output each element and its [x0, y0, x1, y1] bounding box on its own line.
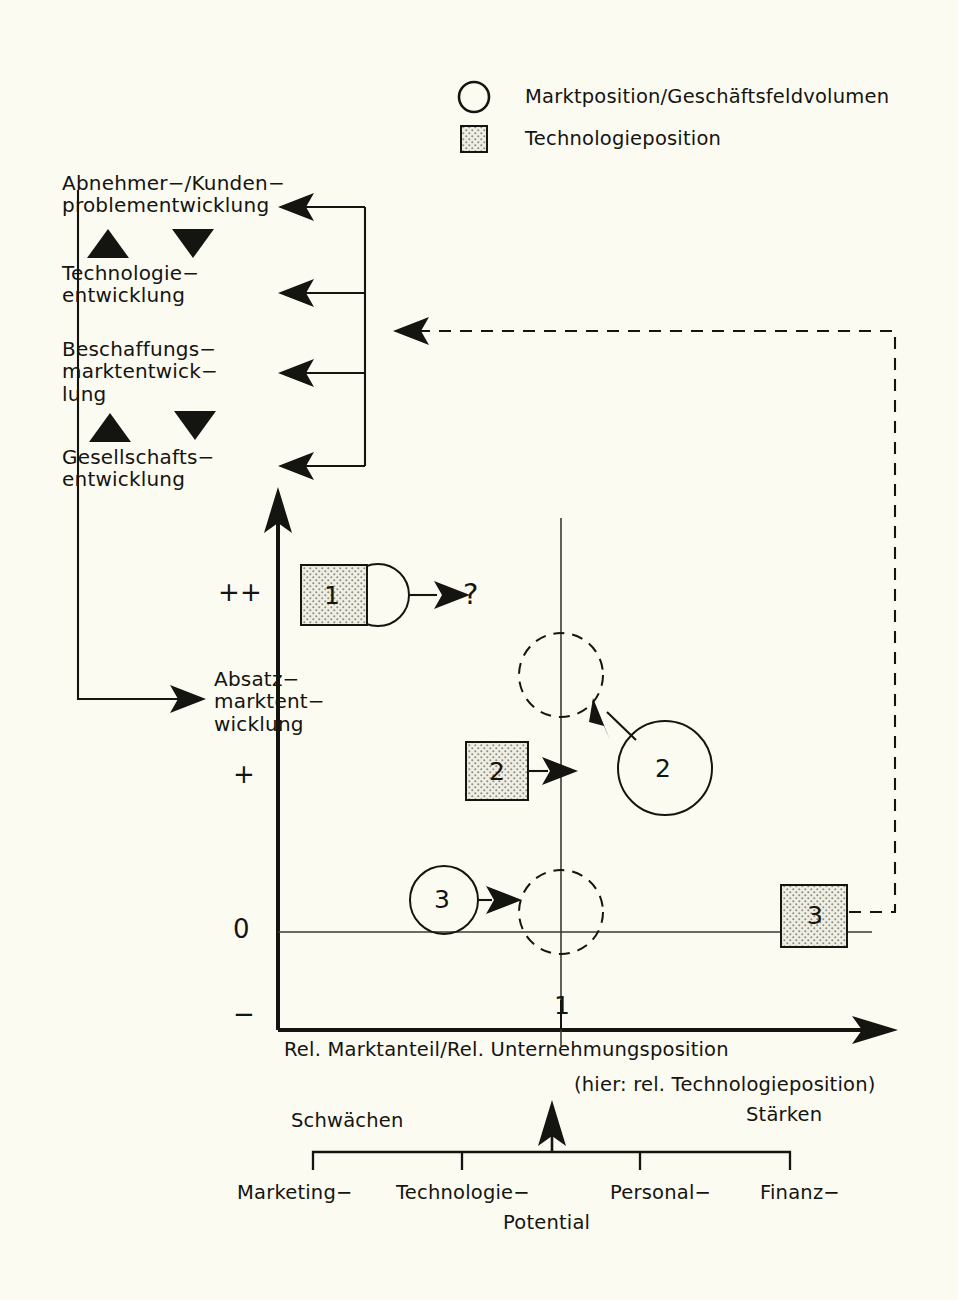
triangle-down-icon-2: [174, 411, 216, 440]
legend-circle-icon: [459, 82, 489, 112]
x-axis-subtitle: (hier: rel. Technologieposition): [574, 1074, 876, 1096]
potential-left-label: Schwächen: [291, 1110, 404, 1132]
arrow-shaft-2b: [607, 712, 636, 740]
datapoint-label-tech-2: 2: [489, 758, 505, 786]
datapoint-label-market-2: 2: [655, 755, 671, 783]
legend-dotted-square-icon: [461, 126, 487, 152]
dashed-feedback-path: [418, 331, 895, 912]
y-tick-plus: +: [233, 760, 255, 789]
influence-label-technology: Technologie− entwicklung: [62, 262, 199, 307]
influence-output-label: Absatz− marktent− wicklung: [214, 668, 325, 735]
triangle-up-icon-1: [87, 229, 129, 258]
potential-caption: Potential: [503, 1212, 590, 1234]
potential-item-marketing: Marketing−: [237, 1182, 353, 1204]
datapoint-label-tech-3: 3: [807, 902, 823, 930]
triangle-down-icon-1: [172, 229, 214, 258]
potential-item-personal: Personal−: [610, 1182, 711, 1204]
potential-item-technology: Technologie−: [396, 1182, 530, 1204]
arrowhead-upleft-2: [589, 698, 610, 740]
influence-label-customer: Abnehmer−/Kunden− problementwicklung: [62, 172, 285, 217]
y-tick-minus: −: [233, 1000, 255, 1029]
datapoint-label-market-3: 3: [434, 886, 450, 914]
potential-right-label: Stärken: [746, 1104, 822, 1126]
datapoint-label-tech-1: 1: [324, 582, 340, 610]
influence-label-procurement: Beschaffungs− marktentwick− lung: [62, 338, 218, 405]
triangle-up-icon-2: [89, 413, 131, 442]
diagram-canvas: Marktposition/Geschäftsfeldvolumen Techn…: [0, 0, 958, 1300]
y-tick-plusplus: ++: [218, 578, 262, 607]
unknown-marker: ?: [463, 578, 479, 610]
potential-item-finance: Finanz−: [760, 1182, 840, 1204]
legend-label-technology: Technologieposition: [525, 128, 721, 150]
x-axis-title: Rel. Marktanteil/Rel. Unternehmungsposit…: [284, 1039, 729, 1061]
legend-label-market: Marktposition/Geschäftsfeldvolumen: [525, 86, 889, 108]
influence-label-society: Gesellschafts− entwicklung: [62, 446, 215, 491]
potential-bracket: [313, 1152, 790, 1170]
x-tick-label-1: 1: [554, 992, 570, 1020]
y-tick-zero: 0: [233, 915, 250, 944]
